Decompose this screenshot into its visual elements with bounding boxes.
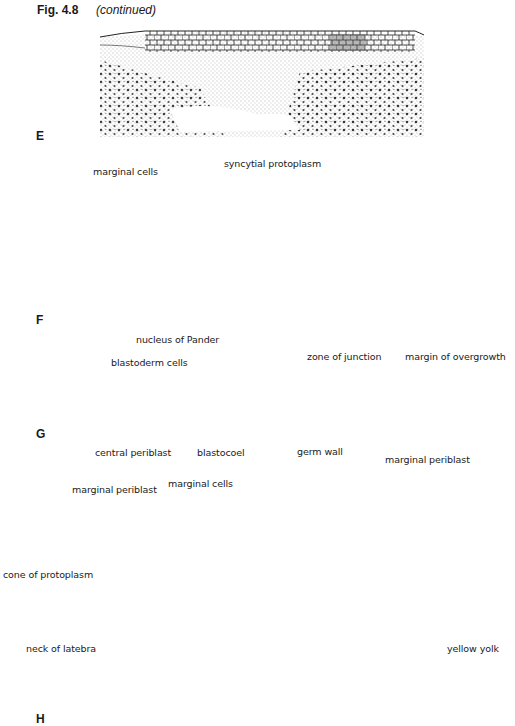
label-marginal-cells-h: marginal cells	[168, 478, 233, 489]
label-marginal-periblast-h: marginal periblast	[72, 484, 157, 495]
panel-letter-f: F	[36, 313, 43, 327]
label-neck-of-latebra: neck of latebra	[26, 643, 96, 654]
label-germ-wall: germ wall	[297, 446, 343, 457]
panel-letter-e: E	[36, 129, 44, 143]
label-cone-of-protoplasm: cone of protoplasm	[3, 569, 93, 580]
label-marginal-cells-f: marginal cells	[93, 166, 158, 177]
label-zone-of-junction: zone of junction	[307, 351, 381, 362]
label-margin-of-overgrowth: margin of overgrowth	[405, 351, 506, 362]
panel-letter-g: G	[36, 427, 45, 441]
label-blastoderm-cells: blastoderm cells	[111, 357, 188, 368]
label-yellow-yolk: yellow yolk	[447, 643, 499, 654]
label-marginal-periblast-g: marginal periblast	[385, 454, 470, 465]
label-syncytial-protoplasm: syncytial protoplasm	[224, 158, 321, 169]
label-central-periblast: central periblast	[95, 447, 171, 458]
label-blastocoel: blastocoel	[197, 447, 245, 458]
panel-e-illustration	[100, 31, 424, 137]
label-nucleus-of-pander: nucleus of Pander	[136, 334, 219, 345]
panel-letter-h: H	[36, 712, 45, 726]
